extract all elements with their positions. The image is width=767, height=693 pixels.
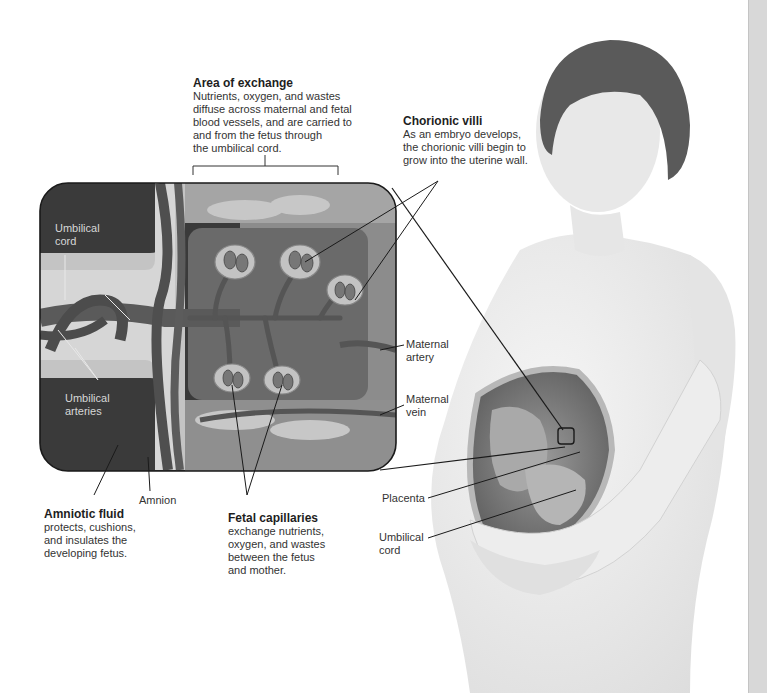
callout-line: oxygen, and wastes: [228, 538, 368, 551]
label-maternal-artery: Maternal artery: [406, 338, 449, 364]
label-line: cord: [379, 544, 424, 557]
callout-line: developing fetus.: [44, 547, 174, 560]
callout-line: protects, cushions,: [44, 521, 174, 534]
callout-line: the umbilical cord.: [193, 142, 393, 155]
callout-title: Fetal capillaries: [228, 512, 368, 525]
label-line: Umbilical: [379, 531, 424, 544]
area-of-exchange-bracket: [193, 155, 338, 175]
callout-line: and insulates the: [44, 534, 174, 547]
label-umbilical-vein: Umbilical vein: [80, 271, 125, 297]
label-maternal-vein: Maternal vein: [406, 393, 449, 419]
callout-line: exchange nutrients,: [228, 525, 368, 538]
label-line: vein: [80, 284, 125, 297]
label-line: artery: [406, 351, 449, 364]
label-line: Maternal: [406, 393, 449, 406]
callout-title: Chorionic villi: [403, 115, 573, 128]
callout-line: grow into the uterine wall.: [403, 154, 573, 167]
callout-line: and mother.: [228, 564, 368, 577]
label-line: Umbilical: [80, 271, 125, 284]
callout-line: Nutrients, oxygen, and wastes: [193, 90, 393, 103]
callout-title: Amniotic fluid: [44, 508, 174, 521]
label-placenta: Placenta: [382, 492, 425, 505]
label-umbilical-cord-inset: Umbilical cord: [55, 222, 100, 248]
label-amnion: Amnion: [139, 494, 176, 507]
label-line: Umbilical: [55, 222, 100, 235]
label-line: cord: [55, 235, 100, 248]
callout-line: the chorionic villi begin to: [403, 141, 573, 154]
callout-title: Area of exchange: [193, 77, 393, 90]
callout-chorionic-villi: Chorionic villi As an embryo develops, t…: [403, 115, 573, 167]
label-line: Maternal: [406, 338, 449, 351]
callout-line: blood vessels, and are carried to: [193, 116, 393, 129]
callout-line: between the fetus: [228, 551, 368, 564]
callout-area-of-exchange: Area of exchange Nutrients, oxygen, and …: [193, 77, 393, 155]
callout-line: and from the fetus through: [193, 129, 393, 142]
label-line: vein: [406, 406, 449, 419]
callout-amniotic-fluid: Amniotic fluid protects, cushions, and i…: [44, 508, 174, 560]
callout-line: diffuse across maternal and fetal: [193, 103, 393, 116]
label-umbilical-arteries: Umbilical arteries: [65, 392, 110, 418]
label-line: Umbilical: [65, 392, 110, 405]
callout-fetal-capillaries: Fetal capillaries exchange nutrients, ox…: [228, 512, 368, 577]
label-line: arteries: [65, 405, 110, 418]
side-strip: [748, 0, 767, 693]
label-umbilical-cord: Umbilical cord: [379, 531, 424, 557]
callout-line: As an embryo develops,: [403, 128, 573, 141]
